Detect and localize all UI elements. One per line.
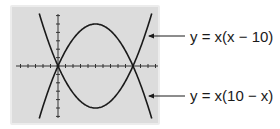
arrow-to-upward-parabola xyxy=(148,34,185,39)
graph-plot xyxy=(0,0,280,129)
arrow-to-downward-parabola xyxy=(148,94,185,99)
upward-parabola xyxy=(39,14,152,109)
label-downward-parabola: y = x(10 − x) xyxy=(190,88,273,103)
x-axis xyxy=(16,64,158,68)
label-upward-parabola: y = x(x − 10) xyxy=(190,29,273,44)
downward-parabola xyxy=(39,24,152,119)
